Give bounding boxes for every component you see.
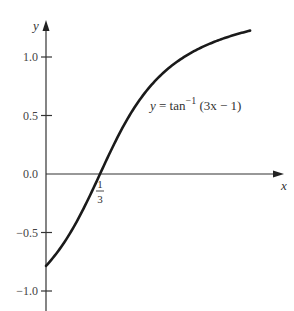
chart-container: 1.00.50.0−0.5−1.0 13 y = tan−1 (3x − 1) … xyxy=(0,0,294,311)
y-tick-label: 0.5 xyxy=(23,109,38,123)
y-tick-label: 0.0 xyxy=(23,167,38,181)
x-axis-arrow-icon xyxy=(273,171,284,178)
y-axis-label: y xyxy=(31,18,39,33)
y-tick-label: −0.5 xyxy=(16,226,38,240)
x-axis-label: x xyxy=(280,178,287,193)
y-axis-arrow-icon xyxy=(43,20,50,31)
arctan-plot: 1.00.50.0−0.5−1.0 13 y = tan−1 (3x − 1) … xyxy=(0,0,294,311)
x-tick-label-denominator: 3 xyxy=(97,193,103,205)
y-tick-label: 1.0 xyxy=(23,50,38,64)
y-tick-label: −1.0 xyxy=(16,284,38,298)
axes xyxy=(43,20,285,311)
arctan-curve xyxy=(46,31,250,266)
equation-annotation: y = tan−1 (3x − 1) xyxy=(148,95,241,113)
